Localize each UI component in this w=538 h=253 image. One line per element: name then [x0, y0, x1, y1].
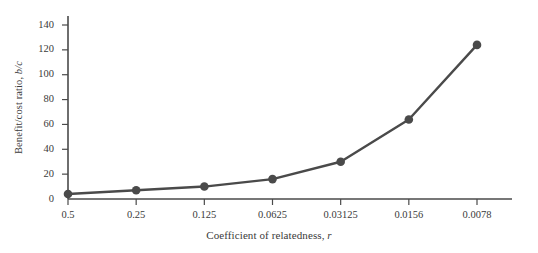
chart-figure: Benefit/cost ratio, b/c Coefficient of r…: [0, 0, 538, 253]
data-point-marker: [473, 41, 482, 50]
plot-area: [0, 0, 538, 253]
data-point-marker: [64, 190, 73, 199]
data-point-marker: [268, 175, 277, 184]
series-line: [68, 45, 477, 194]
data-point-marker: [336, 157, 345, 166]
data-point-marker: [200, 182, 209, 191]
data-series: [64, 41, 482, 199]
data-point-marker: [132, 186, 141, 195]
data-point-marker: [405, 115, 414, 124]
